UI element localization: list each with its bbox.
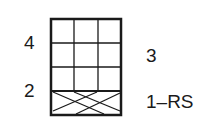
row-label-2: 2 (24, 81, 35, 100)
row-label-4: 4 (24, 33, 35, 52)
cable-cross-icon (53, 92, 120, 114)
row-label-3: 3 (146, 46, 157, 65)
row-label-1-rs: 1–RS (146, 92, 194, 111)
